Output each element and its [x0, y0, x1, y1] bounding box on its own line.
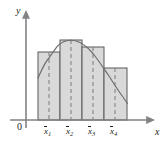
- riemann-rectangles: [38, 40, 127, 120]
- tick-label-x2-sub: 2: [70, 130, 73, 137]
- tick-label-x3-sub: 3: [92, 130, 95, 137]
- x-axis-label: x: [155, 127, 159, 137]
- tick-label-x1-sub: 1: [48, 130, 51, 137]
- tick-label-x3: x3: [88, 126, 95, 136]
- riemann-sum-diagram: [0, 0, 167, 146]
- riemann-sum-figure: y x 0 x1 x2 x3 x4: [0, 0, 167, 146]
- origin-label: 0: [17, 122, 22, 132]
- tick-label-x2: x2: [66, 126, 73, 136]
- y-axis-label: y: [16, 6, 20, 16]
- tick-label-x4: x4: [110, 126, 117, 136]
- tick-label-x1: x1: [44, 126, 51, 136]
- tick-label-x4-sub: 4: [114, 130, 117, 137]
- riemann-rect-2: [60, 40, 82, 120]
